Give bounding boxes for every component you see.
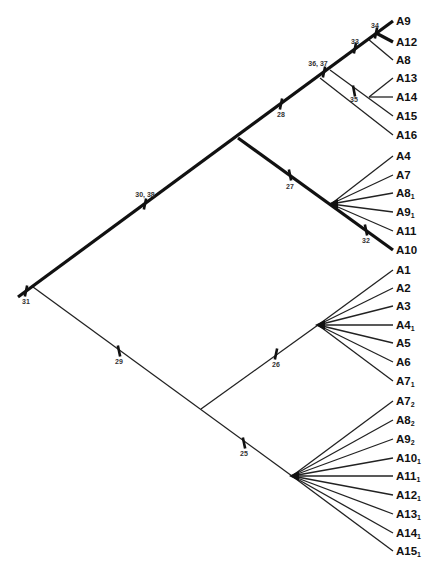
node-label: 28 [277, 111, 285, 118]
thin-branches [33, 39, 393, 551]
leaf-label: A5 [396, 337, 411, 349]
leaf-label: A151 [396, 545, 421, 558]
leaf-label: A9 [396, 15, 411, 27]
branch-edge [369, 78, 393, 97]
leaf-label: A141 [396, 527, 421, 540]
node-labels: 343336, 37352830, 38273231292625 [22, 22, 379, 457]
thick-branches [18, 21, 393, 297]
node-label: 35 [350, 96, 358, 103]
branch-edge [331, 193, 393, 204]
leaf-label: A81 [396, 187, 415, 200]
node-label: 27 [286, 183, 294, 190]
branch-edge [318, 306, 393, 325]
branch-edge [33, 287, 292, 476]
leaf-label: A7 [396, 169, 411, 181]
leaf-label: A12 [396, 36, 417, 48]
character-tick [144, 199, 146, 210]
node-label: 34 [371, 22, 379, 29]
branch-edge [318, 325, 393, 362]
branch-edge [368, 39, 393, 60]
character-tick [323, 67, 325, 78]
leaf-label: A16 [396, 129, 417, 141]
leaf-label: A72 [396, 395, 415, 408]
character-tick [280, 99, 282, 110]
branch-edge-thick [18, 21, 393, 297]
leaf-label: A3 [396, 300, 411, 312]
branch-edge [318, 288, 393, 325]
leaf-label: A4 [396, 150, 411, 162]
leaf-label: A111 [396, 470, 420, 483]
node-label: 31 [22, 298, 30, 305]
character-tick [375, 28, 377, 39]
node-label: 33 [351, 38, 359, 45]
leaf-label: A131 [396, 508, 421, 521]
node-label: 25 [240, 450, 248, 457]
branch-edge [318, 270, 393, 325]
branch-edge [292, 476, 393, 533]
leaf-label: A1 [396, 264, 411, 276]
character-tick [118, 346, 120, 357]
node-label: 32 [362, 237, 370, 244]
leaf-labels: A9A12A8A13A14A15A16A4A7A81A91A11A10A1A2A… [396, 15, 421, 558]
leaf-label: A11 [396, 225, 417, 237]
character-tick [353, 86, 355, 97]
leaf-label: A121 [396, 489, 421, 502]
leaf-label: A6 [396, 356, 411, 368]
leaf-label: A91 [396, 206, 415, 219]
branch-edge [201, 325, 318, 409]
leaf-label: A41 [396, 319, 415, 332]
leaf-label: A2 [396, 282, 411, 294]
node-label: 30, 38 [135, 191, 155, 199]
leaf-label: A92 [396, 433, 415, 446]
branch-edge-thick [238, 138, 393, 250]
node-label: 26 [272, 361, 280, 368]
leaf-label: A71 [396, 375, 415, 388]
node-label: 29 [115, 358, 123, 365]
leaf-label: A10 [396, 244, 417, 256]
character-tick [25, 286, 27, 297]
node-label: 36, 37 [308, 60, 328, 68]
leaf-label: A101 [396, 452, 421, 465]
branch-edge [292, 439, 393, 476]
leaf-label: A13 [396, 72, 417, 84]
character-tick [289, 170, 291, 181]
polytomy-node [289, 471, 299, 481]
branch-edge [292, 476, 393, 495]
character-tick [275, 349, 277, 360]
synapomorphy-ticks [25, 28, 377, 449]
cladogram: 343336, 37352830, 38273231292625 A9A12A8… [0, 0, 435, 568]
branch-edge [292, 476, 393, 551]
polytomy-node [315, 320, 325, 330]
character-tick [365, 225, 367, 236]
branch-edge-thick [376, 33, 393, 42]
character-tick [243, 438, 245, 449]
leaf-label: A15 [396, 110, 418, 122]
leaf-label: A8 [396, 54, 411, 66]
leaf-label: A82 [396, 414, 415, 427]
branch-edge [292, 401, 393, 476]
branch-edge [292, 476, 393, 514]
leaf-label: A14 [396, 91, 418, 103]
